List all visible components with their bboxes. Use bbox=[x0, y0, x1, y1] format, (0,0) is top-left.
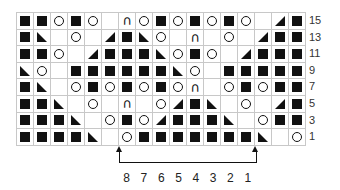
yarn-over-circle-icon bbox=[258, 115, 268, 125]
yarn-over-circle-icon bbox=[71, 82, 81, 92]
left-decrease-triangle-icon bbox=[20, 66, 30, 76]
chart-cell bbox=[119, 129, 136, 146]
yarn-over-circle-icon bbox=[173, 82, 183, 92]
stitch-number: 7 bbox=[135, 171, 152, 185]
chart-cell bbox=[170, 13, 187, 30]
chart-cell bbox=[68, 96, 85, 113]
filled-square-icon bbox=[292, 99, 302, 109]
chart-cell bbox=[17, 129, 34, 146]
chart-cell bbox=[153, 46, 170, 63]
filled-square-icon bbox=[224, 16, 234, 26]
filled-square-icon bbox=[275, 115, 285, 125]
yarn-over-circle-icon bbox=[139, 115, 149, 125]
chart-cell bbox=[102, 13, 119, 30]
filled-square-icon bbox=[292, 16, 302, 26]
filled-square-icon bbox=[139, 66, 149, 76]
chart-cell bbox=[17, 96, 34, 113]
chart-cell bbox=[34, 96, 51, 113]
filled-square-icon bbox=[37, 99, 47, 109]
chart-cell bbox=[34, 13, 51, 30]
chart-cell bbox=[187, 46, 204, 63]
chart-cell bbox=[68, 13, 85, 30]
double-decrease-arch-icon: ∩ bbox=[122, 97, 132, 110]
chart-cell bbox=[51, 30, 68, 47]
chart-cell bbox=[289, 129, 306, 146]
stitch-number: 2 bbox=[222, 171, 239, 185]
chart-cell bbox=[187, 13, 204, 30]
stitch-number: 8 bbox=[118, 171, 135, 185]
chart-cell bbox=[17, 46, 34, 63]
chart-cell bbox=[221, 63, 238, 80]
filled-square-icon bbox=[122, 115, 132, 125]
chart-cell bbox=[68, 63, 85, 80]
chart-cell bbox=[289, 63, 306, 80]
filled-square-icon bbox=[88, 66, 98, 76]
filled-square-icon bbox=[275, 82, 285, 92]
filled-square-icon bbox=[71, 16, 81, 26]
filled-square-icon bbox=[54, 115, 64, 125]
filled-square-icon bbox=[292, 82, 302, 92]
chart-cell bbox=[68, 79, 85, 96]
chart-cell bbox=[170, 113, 187, 130]
filled-square-icon bbox=[71, 132, 81, 142]
chart-cell: ∩ bbox=[187, 30, 204, 47]
double-decrease-arch-icon: ∩ bbox=[190, 31, 200, 44]
chart-cell bbox=[238, 46, 255, 63]
chart-cell bbox=[272, 129, 289, 146]
double-decrease-arch-icon: ∩ bbox=[190, 81, 200, 94]
chart-cell bbox=[51, 79, 68, 96]
right-decrease-triangle-icon bbox=[258, 32, 268, 42]
filled-square-icon bbox=[190, 16, 200, 26]
chart-cell bbox=[153, 129, 170, 146]
yarn-over-circle-icon bbox=[156, 32, 166, 42]
chart-cell bbox=[272, 79, 289, 96]
row-label: 13 bbox=[309, 29, 321, 46]
filled-square-icon bbox=[156, 66, 166, 76]
chart-cell bbox=[136, 96, 153, 113]
filled-square-icon bbox=[37, 132, 47, 142]
left-decrease-triangle-icon bbox=[207, 99, 217, 109]
chart-cell bbox=[204, 30, 221, 47]
chart-cell bbox=[34, 30, 51, 47]
chart-cell bbox=[170, 79, 187, 96]
yarn-over-circle-icon bbox=[258, 82, 268, 92]
filled-square-icon bbox=[71, 66, 81, 76]
filled-square-icon bbox=[156, 82, 166, 92]
chart-cell bbox=[136, 113, 153, 130]
filled-square-icon bbox=[20, 132, 30, 142]
yarn-over-circle-icon bbox=[122, 132, 132, 142]
chart-cell bbox=[17, 63, 34, 80]
chart-cell bbox=[255, 129, 272, 146]
chart-cell bbox=[68, 30, 85, 47]
filled-square-icon bbox=[139, 132, 149, 142]
left-decrease-triangle-icon bbox=[224, 115, 234, 125]
chart-cell bbox=[238, 129, 255, 146]
chart-cell bbox=[34, 63, 51, 80]
stitch-number: 5 bbox=[170, 171, 187, 185]
chart-cell bbox=[136, 30, 153, 47]
yarn-over-circle-icon bbox=[88, 16, 98, 26]
chart-cell bbox=[85, 113, 102, 130]
chart-cell bbox=[255, 46, 272, 63]
chart-cell bbox=[68, 113, 85, 130]
chart-cell bbox=[17, 113, 34, 130]
chart-cell bbox=[85, 30, 102, 47]
chart-cell bbox=[272, 46, 289, 63]
yarn-over-circle-icon bbox=[139, 16, 149, 26]
chart-cell bbox=[238, 63, 255, 80]
chart-cell bbox=[204, 63, 221, 80]
yarn-over-circle-icon bbox=[207, 49, 217, 59]
chart-cell bbox=[289, 46, 306, 63]
right-decrease-triangle-icon bbox=[156, 115, 166, 125]
chart-cell: ∩ bbox=[187, 79, 204, 96]
yarn-over-circle-icon bbox=[241, 16, 251, 26]
yarn-over-circle-icon bbox=[54, 49, 64, 59]
left-decrease-triangle-icon bbox=[71, 115, 81, 125]
filled-square-icon bbox=[292, 66, 302, 76]
chart-cell bbox=[238, 30, 255, 47]
chart-cell bbox=[289, 79, 306, 96]
chart-cell bbox=[102, 129, 119, 146]
yarn-over-circle-icon bbox=[207, 16, 217, 26]
chart-cell bbox=[289, 30, 306, 47]
filled-square-icon bbox=[292, 49, 302, 59]
